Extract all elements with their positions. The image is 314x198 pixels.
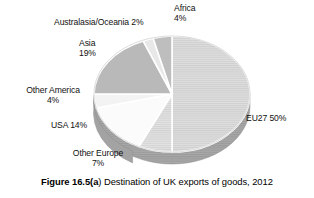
pie-label-asia: Asia 19%: [79, 38, 96, 58]
figure-caption-number: Figure 16.5(a: [41, 176, 98, 187]
pie-label-usa-text: USA 14%: [51, 120, 87, 130]
pie-label-other-europe: Other Europe 7%: [57, 148, 139, 168]
pie-label-africa-value: 4%: [174, 13, 195, 23]
pie-label-usa: USA 14%: [51, 120, 87, 130]
pie-label-asia-value: 19%: [79, 48, 96, 58]
pie-label-other-america: Other America 4%: [7, 85, 99, 105]
pie-label-eu27: EU27 50%: [246, 113, 286, 123]
pie-label-other-europe-name: Other Europe: [73, 148, 123, 158]
pie-label-australasia: Australasia/Oceania 2%: [54, 17, 144, 27]
pie-label-africa-name: Africa: [174, 3, 195, 13]
pie-label-other-america-value: 4%: [7, 95, 99, 105]
pie-slices-group: [94, 36, 250, 152]
figure-container: Africa 4% Australasia/Oceania 2% Asia 19…: [0, 0, 314, 198]
pie-label-asia-name: Asia: [79, 38, 95, 48]
pie-label-australasia-text: Australasia/Oceania 2%: [54, 17, 144, 27]
figure-caption-text: ) Destination of UK exports of goods, 20…: [98, 176, 273, 187]
pie-label-eu27-text: EU27 50%: [246, 113, 286, 123]
pie-label-africa: Africa 4%: [174, 3, 195, 23]
pie-chart-area: Africa 4% Australasia/Oceania 2% Asia 19…: [0, 0, 314, 170]
pie-label-other-europe-value: 7%: [57, 158, 139, 168]
figure-caption: Figure 16.5(a) Destination of UK exports…: [0, 176, 314, 188]
pie-label-other-america-name: Other America: [26, 85, 80, 95]
